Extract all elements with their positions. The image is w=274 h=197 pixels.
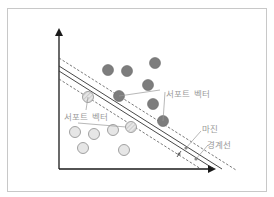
- class-a-point: [148, 99, 159, 110]
- support-vector-label-upper: 서포트 벡터: [166, 87, 210, 99]
- support-vector-label-lower: 서포트 벡터: [64, 110, 108, 122]
- class-b-point: [78, 143, 89, 154]
- class-a-point: [143, 80, 154, 91]
- margin-label: 마진: [202, 122, 218, 134]
- class-b-points: [70, 92, 137, 156]
- class-b-point: [119, 145, 130, 156]
- class-b-point: [70, 127, 81, 138]
- svm-diagram: [0, 0, 274, 197]
- margin-markers: [177, 146, 198, 160]
- class-b-point: [89, 129, 100, 140]
- class-a-point: [122, 66, 133, 77]
- class-a-point: [103, 65, 114, 76]
- boundary-label: 경계선: [207, 138, 232, 150]
- class-a-points: [103, 58, 169, 127]
- class-a-point: [150, 58, 161, 69]
